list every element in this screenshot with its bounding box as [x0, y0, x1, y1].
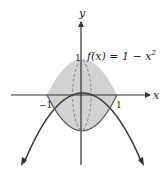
function-label-exponent: 2: [150, 49, 156, 57]
arrow-right-icon: [138, 157, 144, 166]
solid-of-revolution-diagram: y x 1 −1 1 f(x) = 1 − x2: [0, 0, 168, 173]
function-label: f(x) = 1 − x2: [86, 49, 156, 63]
tick-label-top: 1: [75, 53, 81, 63]
tick-label-right: 1: [116, 100, 122, 110]
tick-label-left: −1: [39, 100, 52, 110]
y-axis-label: y: [78, 7, 86, 20]
function-label-text: f(x) = 1 − x: [86, 50, 152, 63]
x-axis-label: x: [153, 89, 160, 102]
